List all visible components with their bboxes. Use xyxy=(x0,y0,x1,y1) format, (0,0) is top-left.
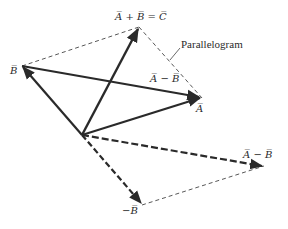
vector-b-arrow xyxy=(23,67,82,135)
vector-a-minus-b-origin-arrow xyxy=(82,135,262,166)
label-parallelogram: Parallelogram xyxy=(181,39,243,50)
vector-neg-b-arrow xyxy=(82,135,141,203)
vector-diagram xyxy=(0,0,288,229)
label-b: B̅ xyxy=(10,66,17,76)
label-neg-b: −B̅ xyxy=(122,206,138,216)
label-a-minus-b-right: A̅ − B̅ xyxy=(243,150,272,160)
label-a: A̅ xyxy=(196,104,203,114)
completion-line-negb-to-a-minus-b xyxy=(142,166,264,205)
parallelogram-leader-line xyxy=(170,48,180,60)
label-sum-c: A̅ + B̅ = C̅ xyxy=(115,12,167,22)
label-a-minus-b-top: A̅ − B̅ xyxy=(150,74,179,84)
